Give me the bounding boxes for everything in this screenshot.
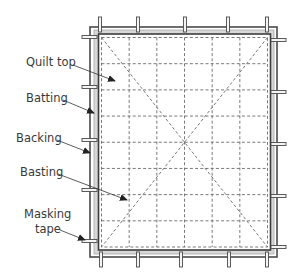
masking-tape-tab	[271, 143, 286, 146]
masking-tape-tab	[180, 252, 183, 267]
label-backing: Backing	[16, 131, 62, 145]
label-masking-tape-line2: tape	[35, 222, 61, 236]
masking-tape-tab	[100, 252, 103, 267]
label-masking-tape-line1: Masking	[24, 207, 71, 221]
masking-tape-tab	[271, 91, 286, 94]
label-batting: Batting	[26, 91, 68, 105]
label-basting: Basting	[20, 165, 63, 179]
masking-tape-tab	[137, 252, 140, 267]
masking-tape-tab	[82, 139, 97, 142]
masking-tape-tab	[227, 17, 230, 32]
masking-tape-tab	[271, 195, 286, 198]
masking-tape-tab	[82, 189, 97, 192]
arrow-masking-tape	[60, 230, 85, 240]
masking-tape-tab	[271, 246, 286, 249]
masking-tape-tab	[82, 36, 97, 39]
masking-tape-tab	[137, 17, 140, 32]
masking-tape-tab	[266, 252, 269, 267]
label-quilt-top: Quilt top	[26, 55, 76, 69]
masking-tape-tab	[184, 17, 187, 32]
masking-tape-tab	[228, 252, 231, 267]
quilt-basting-diagram: Quilt top Batting Backing Basting Maskin…	[0, 0, 304, 280]
masking-tape-tab	[82, 86, 97, 89]
masking-tape-tab	[99, 17, 102, 32]
masking-tape-tab	[266, 17, 269, 32]
masking-tape-tab	[271, 39, 286, 42]
